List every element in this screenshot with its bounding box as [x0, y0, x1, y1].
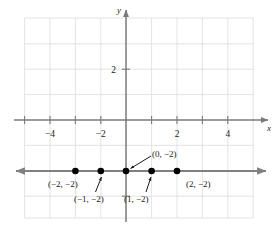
y-axis-label: y — [116, 5, 121, 15]
data-point — [174, 168, 181, 175]
x-axis-label: x — [266, 123, 271, 133]
x-tick-label-neg4: −4 — [45, 129, 55, 139]
leader-line-pos1 — [146, 177, 151, 192]
x-tick-label-neg2: −2 — [96, 129, 106, 139]
leader-lines — [96, 156, 152, 192]
x-tick-label-pos2: 2 — [175, 129, 180, 139]
point-label-zero: (0, −2) — [152, 149, 177, 159]
data-point — [72, 168, 79, 175]
y-tick-label-pos2: 2 — [111, 65, 116, 75]
x-tick-label-pos4: 4 — [225, 129, 230, 139]
data-point — [148, 168, 155, 175]
point-label-neg1: (−1, −2) — [74, 194, 104, 204]
leader-line-zero — [131, 156, 152, 169]
point-label-neg2: (−2, −2) — [48, 179, 78, 189]
point-label-pos2: (2, −2) — [186, 179, 211, 189]
data-point — [98, 168, 105, 175]
data-point — [123, 168, 130, 175]
coordinate-plane-figure: y x −4 −2 2 4 2 — [0, 0, 278, 232]
point-label-pos1: (1, −2) — [124, 194, 149, 204]
graph-canvas: y x −4 −2 2 4 2 — [0, 0, 278, 232]
